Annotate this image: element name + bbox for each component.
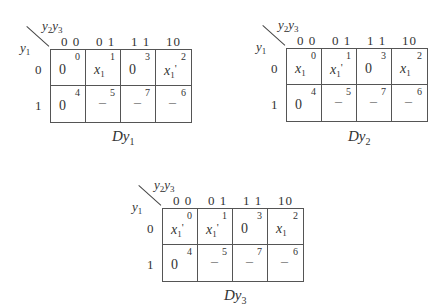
kmap-grid: 00 1x1 30 2x1' 40 5– 7– 6– <box>50 49 192 123</box>
col-label: 0 0 <box>173 193 192 209</box>
minterm-index: 2 <box>293 210 298 221</box>
minterm-index: 1 <box>110 51 115 62</box>
cell-m6: 6– <box>268 245 303 281</box>
dont-care: – <box>335 94 342 110</box>
col-label: 10 <box>166 34 181 50</box>
cell-value: 0 <box>171 257 178 273</box>
cell-value: 0 <box>59 62 66 78</box>
kmap-grid: 0x1 1x1' 30 2x1 40 5– 7– 6– <box>286 48 428 122</box>
minterm-index: 7 <box>257 246 262 257</box>
kmap-grid: 0x1' 1x1' 30 2x1 40 5– 7– 6– <box>162 208 304 282</box>
cell-m6: 6– <box>156 86 191 122</box>
cell-m4: 40 <box>287 85 322 121</box>
cell-m7: 7– <box>121 86 156 122</box>
col-vars-label: y2y3 <box>42 18 63 35</box>
minterm-index: 7 <box>145 87 150 98</box>
dont-care: – <box>211 254 218 270</box>
minterm-index: 4 <box>311 86 316 97</box>
kmap-dy2: y2y3 y1 0 0 0 1 1 1 10 0 1 0x1 1x1' 30 2… <box>236 0 436 149</box>
kmap-dy1: y2y3 y1 0 0 0 1 1 1 10 0 1 00 1x1 30 2x1… <box>0 0 200 150</box>
minterm-index: 5 <box>346 86 351 97</box>
cell-m2: 2x1 <box>392 49 427 85</box>
minterm-index: 5 <box>222 246 227 257</box>
minterm-index: 2 <box>417 50 422 61</box>
cell-value: x1' <box>171 221 184 239</box>
dont-care: – <box>246 254 253 270</box>
minterm-index: 6 <box>181 87 186 98</box>
row-label: 0 <box>271 61 278 77</box>
cell-value: x1 <box>400 61 411 78</box>
cell-m1: 1x1' <box>322 49 357 85</box>
col-label: 0 1 <box>96 34 115 50</box>
row-var-label: y1 <box>20 40 30 57</box>
cell-value: 0 <box>365 61 372 77</box>
cell-value: x1' <box>206 221 219 239</box>
cell-m0: 0x1' <box>163 209 198 245</box>
minterm-index: 7 <box>381 86 386 97</box>
col-label: 0 1 <box>208 193 227 209</box>
minterm-index: 5 <box>110 87 115 98</box>
cell-value: 0 <box>59 98 66 114</box>
row-var-label: y1 <box>256 39 266 56</box>
minterm-index: 1 <box>346 50 351 61</box>
cell-m5: 5– <box>86 86 121 122</box>
minterm-index: 6 <box>417 86 422 97</box>
col-label: 0 0 <box>297 33 316 49</box>
cell-m1: 1x1' <box>198 209 233 245</box>
row-var-label: y1 <box>132 199 142 216</box>
map-title: Dy1 <box>112 128 135 147</box>
kmap-dy3: y2y3 y1 0 0 0 1 1 1 10 0 1 0x1' 1x1' 30 … <box>112 159 312 305</box>
cell-m7: 7– <box>357 85 392 121</box>
cell-value: x1 <box>94 62 105 79</box>
row-label: 0 <box>35 62 42 78</box>
cell-m3: 30 <box>357 49 392 85</box>
col-label: 10 <box>278 193 293 209</box>
dont-care: – <box>134 95 141 111</box>
row-label: 1 <box>35 98 42 114</box>
cell-m5: 5– <box>198 245 233 281</box>
minterm-index: 0 <box>187 210 192 221</box>
minterm-index: 4 <box>75 87 80 98</box>
cell-value: 0 <box>129 62 136 78</box>
cell-m2: 2x1 <box>268 209 303 245</box>
cell-m7: 7– <box>233 245 268 281</box>
minterm-index: 6 <box>293 246 298 257</box>
col-label: 1 1 <box>131 34 150 50</box>
cell-value: x1 <box>295 61 306 78</box>
cell-value: x1' <box>164 62 177 80</box>
cell-value: x1' <box>330 61 343 79</box>
minterm-index: 3 <box>257 210 262 221</box>
row-label: 0 <box>147 221 154 237</box>
minterm-index: 0 <box>311 50 316 61</box>
minterm-index: 0 <box>75 51 80 62</box>
dont-care: – <box>281 254 288 270</box>
cell-value: 0 <box>241 221 248 237</box>
col-label: 0 1 <box>332 33 351 49</box>
cell-m0: 00 <box>51 50 86 86</box>
cell-m3: 30 <box>233 209 268 245</box>
dont-care: – <box>169 95 176 111</box>
minterm-index: 3 <box>145 51 150 62</box>
dont-care: – <box>99 95 106 111</box>
col-label: 0 0 <box>61 34 80 50</box>
cell-value: x1 <box>276 221 287 238</box>
cell-value: 0 <box>295 97 302 113</box>
col-vars-label: y2y3 <box>154 177 175 194</box>
col-label: 1 1 <box>243 193 262 209</box>
dont-care: – <box>405 94 412 110</box>
row-label: 1 <box>147 257 154 273</box>
minterm-index: 2 <box>181 51 186 62</box>
col-label: 1 1 <box>367 33 386 49</box>
minterm-index: 3 <box>381 50 386 61</box>
cell-m4: 40 <box>51 86 86 122</box>
cell-m4: 40 <box>163 245 198 281</box>
minterm-index: 1 <box>222 210 227 221</box>
col-vars-label: y2y3 <box>278 17 299 34</box>
dont-care: – <box>370 94 377 110</box>
cell-m3: 30 <box>121 50 156 86</box>
minterm-index: 4 <box>187 246 192 257</box>
cell-m1: 1x1 <box>86 50 121 86</box>
cell-m2: 2x1' <box>156 50 191 86</box>
cell-m0: 0x1 <box>287 49 322 85</box>
map-title: Dy3 <box>224 287 247 305</box>
